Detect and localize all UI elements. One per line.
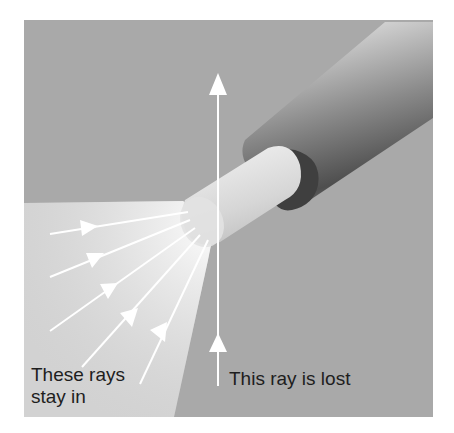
rays-stay-in-line2: stay in — [31, 386, 125, 408]
rays-stay-in-line1: These rays — [31, 364, 125, 386]
fiber-optic-diagram: These rays stay in This ray is lost — [0, 0, 454, 433]
ray-lost-label: This ray is lost — [229, 368, 350, 390]
rays-stay-in-label: These rays stay in — [31, 364, 125, 408]
